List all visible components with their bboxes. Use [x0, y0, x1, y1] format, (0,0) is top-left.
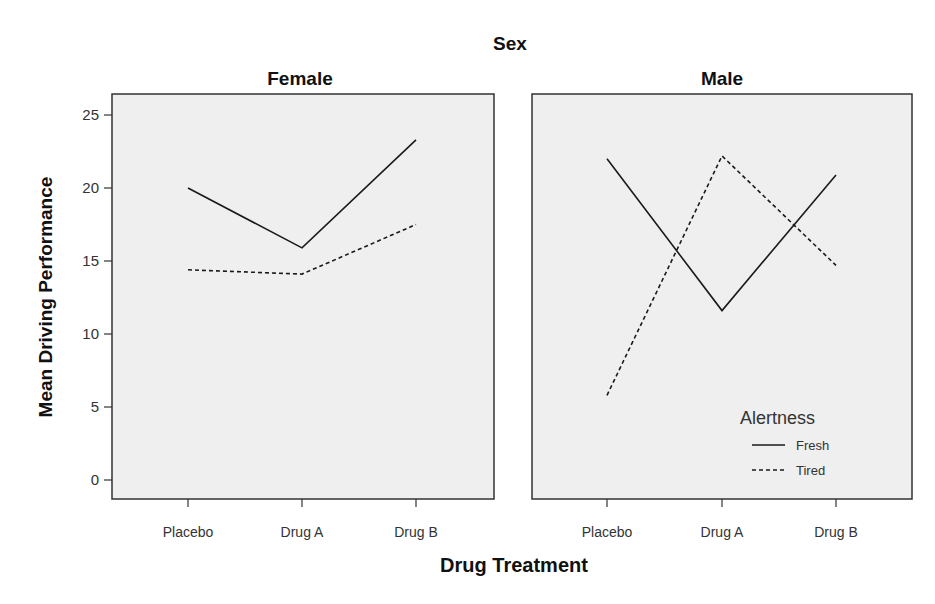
- legend-tired-label: Tired: [796, 463, 825, 478]
- panel-label-male: Male: [701, 68, 743, 89]
- y-axis-label: Mean Driving Performance: [35, 177, 56, 418]
- panel-background: [112, 94, 494, 499]
- panel-label-female: Female: [267, 68, 332, 89]
- x-tick-label: Placebo: [163, 524, 214, 540]
- panel-male: PlaceboDrug ADrug B: [532, 94, 912, 540]
- panel-female: PlaceboDrug ADrug B: [112, 94, 494, 540]
- x-tick-label: Placebo: [582, 524, 633, 540]
- panel-background: [532, 94, 912, 499]
- legend-title: Alertness: [740, 408, 815, 428]
- x-tick-label: Drug A: [701, 524, 744, 540]
- chart-svg: Sex Female Male PlaceboDrug ADrug BPlace…: [0, 0, 935, 604]
- y-tick-label: 0: [91, 471, 99, 488]
- y-tick-label: 25: [82, 106, 99, 123]
- panels: PlaceboDrug ADrug BPlaceboDrug ADrug B: [112, 94, 912, 540]
- y-tick-label: 5: [91, 398, 99, 415]
- y-axis: 0510152025: [82, 106, 112, 488]
- x-tick-label: Drug B: [814, 524, 858, 540]
- x-tick-label: Drug B: [394, 524, 438, 540]
- x-axis-label: Drug Treatment: [440, 554, 588, 576]
- legend-fresh-label: Fresh: [796, 438, 829, 453]
- chart-title: Sex: [493, 33, 527, 54]
- x-tick-label: Drug A: [281, 524, 324, 540]
- y-tick-label: 20: [82, 179, 99, 196]
- y-tick-label: 10: [82, 325, 99, 342]
- y-tick-label: 15: [82, 252, 99, 269]
